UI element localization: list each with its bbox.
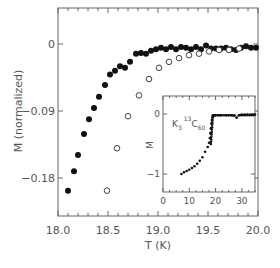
open-data-point <box>196 51 202 57</box>
inset-data-point <box>196 163 199 166</box>
inset-data-point <box>248 114 250 116</box>
open-data-point <box>186 52 192 58</box>
filled-data-point <box>112 68 118 74</box>
open-data-point <box>104 188 110 194</box>
filled-data-point <box>127 59 133 65</box>
filled-data-point <box>203 42 209 48</box>
open-data-point <box>226 47 232 53</box>
inset-data-point <box>221 114 223 116</box>
filled-data-point <box>102 82 108 88</box>
inset-data-point <box>191 167 194 170</box>
x-tick-label: 18.0 <box>46 224 71 237</box>
inset-data-point <box>216 114 218 116</box>
filled-data-point <box>71 168 77 174</box>
filled-data-point <box>107 72 113 78</box>
open-data-point <box>236 46 242 52</box>
inset-data-point <box>211 119 214 122</box>
inset-data-point <box>238 114 240 116</box>
magnetization-chart: 18.018.519.019.520.00−0.09−0.18 01020300… <box>0 0 280 268</box>
inset-data-point <box>211 121 214 124</box>
inset-data-point <box>210 143 213 146</box>
inset-data-point <box>242 114 244 116</box>
inset-data-point <box>210 136 213 139</box>
filled-data-point <box>122 65 128 71</box>
open-data-point <box>216 47 222 53</box>
inset-data-point <box>227 114 229 116</box>
inset-data-point <box>252 114 254 116</box>
inset-data-point <box>229 114 231 116</box>
inset-data-point <box>185 170 188 173</box>
y-tick-label: −0.09 <box>21 105 55 118</box>
inset-data-point <box>210 131 213 134</box>
inset-data-point <box>235 116 237 118</box>
inset-data-point <box>244 114 246 116</box>
inset-y-axis-label: M <box>145 141 155 149</box>
filled-data-point <box>96 94 102 100</box>
inset-x-tick-label: 10 <box>184 196 196 206</box>
inset-plot: 01020300−1MK313C60 <box>145 96 256 206</box>
open-data-point <box>114 145 120 151</box>
x-tick-label: 19.5 <box>196 224 221 237</box>
inset-data-point <box>211 124 214 127</box>
y-tick-label: 0 <box>48 38 55 51</box>
open-data-point <box>136 93 142 99</box>
inset-data-point <box>201 156 204 159</box>
inset-data-point <box>212 114 215 117</box>
filled-data-point <box>91 105 97 111</box>
open-data-point <box>146 76 152 82</box>
inset-data-point <box>193 165 196 168</box>
open-data-point <box>156 65 162 71</box>
x-tick-label: 18.5 <box>96 224 121 237</box>
inset-data-point <box>210 133 213 136</box>
open-data-point <box>176 55 182 61</box>
inset-data-point <box>231 114 233 116</box>
inset-data-point <box>214 114 216 116</box>
inset-x-tick-label: 30 <box>236 196 248 206</box>
x-tick-label: 19.0 <box>146 224 171 237</box>
inset-x-tick-label: 20 <box>210 196 222 206</box>
inset-data-point <box>223 114 225 116</box>
open-data-point <box>125 113 131 119</box>
x-tick-label: 20.0 <box>246 224 271 237</box>
inset-y-tick-label: −1 <box>147 169 160 179</box>
inset-data-point <box>210 138 213 141</box>
inset-data-point <box>233 114 235 116</box>
inset-data-point <box>246 114 248 116</box>
y-axis-label: M (normalized) <box>12 70 25 153</box>
inset-data-point <box>211 126 214 129</box>
inset-data-point <box>219 114 221 116</box>
x-axis-label: T (K) <box>144 239 171 252</box>
filled-data-point <box>81 131 87 137</box>
inset-data-point <box>210 140 213 143</box>
filled-data-point <box>65 188 71 194</box>
filled-data-point <box>253 45 259 51</box>
inset-x-tick-label: 0 <box>160 196 166 206</box>
open-data-point <box>206 49 212 55</box>
inset-data-point <box>211 128 214 131</box>
inset-data-point <box>204 151 207 154</box>
inset-data-point <box>183 171 186 174</box>
inset-data-point <box>188 169 191 172</box>
inset-data-point <box>250 114 252 116</box>
inset-y-tick-label: 0 <box>154 109 160 119</box>
inset-data-point <box>199 160 202 163</box>
open-data-point <box>166 59 172 65</box>
filled-data-point <box>143 51 149 57</box>
inset-data-point <box>180 173 183 176</box>
inset-data-point <box>240 114 242 116</box>
y-tick-label: −0.18 <box>21 172 55 185</box>
inset-data-point <box>206 146 209 149</box>
inset-data-point <box>225 114 227 116</box>
filled-data-point <box>75 152 81 158</box>
filled-data-point <box>86 116 92 122</box>
inset-data-point <box>211 116 214 119</box>
